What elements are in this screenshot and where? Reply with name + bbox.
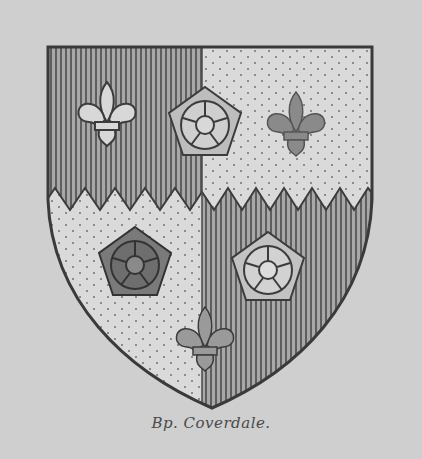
quarter-bottom-left <box>40 188 202 420</box>
coat-of-arms-illustration <box>0 0 422 459</box>
shield <box>40 40 382 420</box>
quarter-bottom-right <box>202 188 382 420</box>
caption: Bp. Coverdale. <box>0 414 422 432</box>
